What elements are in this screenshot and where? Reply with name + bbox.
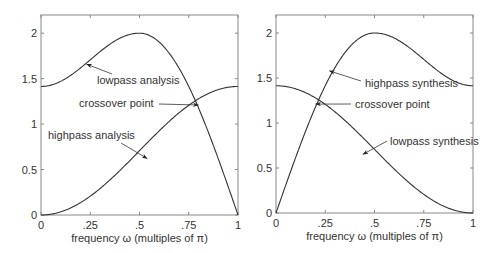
axes-box — [276, 15, 473, 213]
x-tick-label: 1 — [235, 219, 241, 231]
annotation-label: highpass synthesis — [365, 77, 458, 89]
y-tick-label: 2 — [31, 27, 37, 39]
y-tick-label: 0 — [31, 209, 37, 221]
y-tick-label: 2 — [266, 27, 272, 39]
annotation-arrow — [159, 104, 199, 105]
annotation-arrow — [329, 71, 361, 81]
x-tick-label: .25 — [318, 217, 333, 229]
annotation-arrow — [363, 141, 387, 155]
series-curve — [41, 33, 238, 215]
y-tick-label: 1.5 — [257, 72, 272, 84]
x-tick-label: .5 — [370, 217, 379, 229]
annotation-label: crossover point — [355, 98, 430, 110]
x-tick-label: 1 — [470, 217, 476, 229]
x-tick-label: .25 — [83, 219, 98, 231]
y-tick-label: 1 — [31, 118, 37, 130]
annotation-label: highpass analysis — [48, 129, 135, 141]
y-tick-label: 0.5 — [257, 162, 272, 174]
annotation-label: lowpass analysis — [97, 74, 180, 86]
figure: 0.25.5.75100.511.52frequency ω (multiple… — [0, 0, 500, 253]
x-axis-label: frequency ω (multiples of π) — [306, 230, 443, 242]
y-tick-label: 0 — [266, 207, 272, 219]
series-curve — [276, 33, 473, 213]
annotation-arrow — [86, 64, 112, 74]
synthesis-plot: 0.25.5.75100.511.52frequency ω (multiple… — [257, 15, 479, 242]
axes-box — [41, 15, 238, 215]
annotation-label: crossover point — [79, 97, 154, 109]
x-tick-label: 0 — [273, 217, 279, 229]
x-axis-label: frequency ω (multiples of π) — [71, 232, 208, 244]
annotation-label: lowpass synthesis — [390, 135, 479, 147]
y-tick-label: 0.5 — [22, 164, 37, 176]
x-tick-label: .75 — [181, 219, 196, 231]
x-tick-label: 0 — [38, 219, 44, 231]
analysis-plot: 0.25.5.75100.511.52frequency ω (multiple… — [22, 15, 241, 244]
y-tick-label: 1 — [266, 117, 272, 129]
x-tick-label: .75 — [416, 217, 431, 229]
x-tick-label: .5 — [135, 219, 144, 231]
y-tick-label: 1.5 — [22, 73, 37, 85]
